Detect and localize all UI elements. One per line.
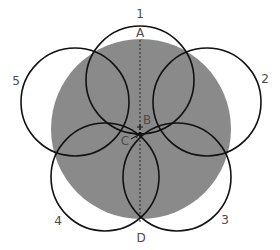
circle-label-2: 2: [261, 72, 269, 86]
point-c-dot-icon: [138, 132, 142, 136]
circle-label-5: 5: [12, 74, 20, 88]
point-label-a: A: [136, 26, 145, 40]
point-label-d: D: [136, 231, 145, 245]
point-label-b: B: [143, 113, 151, 127]
circle-label-1: 1: [136, 7, 144, 21]
point-label-c: C: [121, 134, 129, 148]
circle-label-4: 4: [54, 214, 62, 228]
circle-label-3: 3: [221, 213, 229, 227]
shaded-disc: [51, 39, 231, 219]
diagram-stage: 12345ABCD: [0, 0, 280, 250]
five-circle-construction-diagram: 12345ABCD: [0, 0, 280, 250]
